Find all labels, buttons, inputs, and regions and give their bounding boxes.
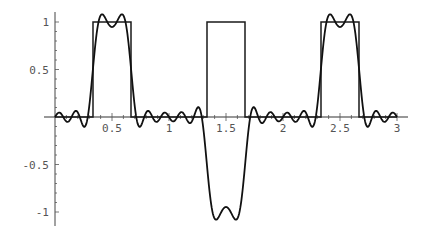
x-tick-label: 1.5 (216, 122, 236, 135)
y-tick-label: -0.5 (23, 159, 50, 172)
x-tick-label: 2 (280, 122, 287, 135)
y-tick-label: 0.5 (29, 64, 49, 77)
x-tick-label: 0.5 (102, 122, 122, 135)
x-tick-label: 1 (166, 122, 173, 135)
y-tick-label: 1 (42, 16, 49, 29)
x-tick-label: 3 (394, 122, 401, 135)
y-tick-label: -1 (36, 206, 49, 219)
fourier-square-wave-chart: 0.511.522.5310.5-0.5-1 (0, 0, 425, 236)
rectangular-pulse-series (55, 22, 397, 117)
x-tick-label: 2.5 (330, 122, 350, 135)
